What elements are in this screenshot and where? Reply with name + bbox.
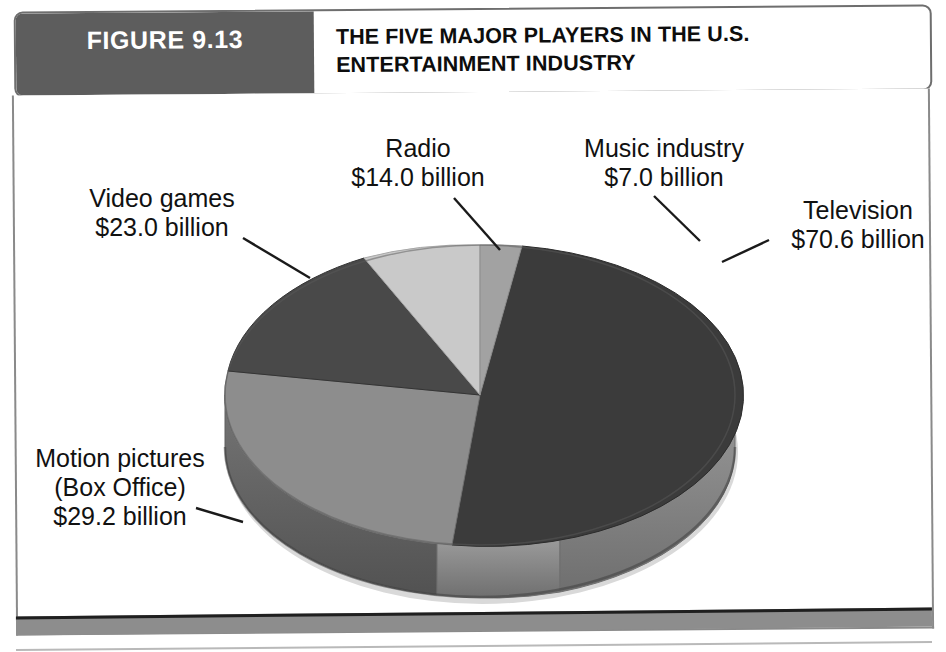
figure-bottom-edge: [16, 641, 932, 651]
pie-label-video-games-name: Video games: [89, 184, 234, 212]
pie-label-music-industry: Music industry $7.0 billion: [556, 134, 772, 192]
pie-label-video-games-value: $23.0 billion: [48, 213, 276, 242]
figure-number-badge: FIGURE 9.13: [16, 11, 315, 95]
pie-label-motion-pictures: Motion pictures (Box Office) $29.2 billi…: [8, 444, 232, 531]
pie-label-music-industry-value: $7.0 billion: [556, 163, 772, 192]
pie-label-television-value: $70.6 billion: [772, 225, 944, 254]
figure-header-box: FIGURE 9.13 THE FIVE MAJOR PLAYERS IN TH…: [14, 4, 933, 97]
pie-label-motion-pictures-value: $29.2 billion: [8, 502, 232, 531]
figure-title: THE FIVE MAJOR PLAYERS IN THE U.S. ENTER…: [336, 18, 926, 79]
pie-label-radio: Radio $14.0 billion: [318, 134, 518, 192]
pie-label-radio-name: Radio: [385, 134, 450, 162]
figure-number-label: FIGURE 9.13: [86, 25, 243, 55]
pie-label-radio-value: $14.0 billion: [318, 163, 518, 192]
pie-label-music-industry-name: Music industry: [584, 134, 744, 162]
figure-page: FIGURE 9.13 THE FIVE MAJOR PLAYERS IN TH…: [0, 0, 946, 652]
pie-label-video-games: Video games $23.0 billion: [48, 184, 276, 242]
pie-label-motion-pictures-name: Motion pictures: [35, 444, 205, 472]
pie-label-motion-pictures-sub: (Box Office): [8, 473, 232, 502]
pie-label-television: Television $70.6 billion: [772, 196, 944, 254]
pie-label-television-name: Television: [803, 196, 913, 224]
